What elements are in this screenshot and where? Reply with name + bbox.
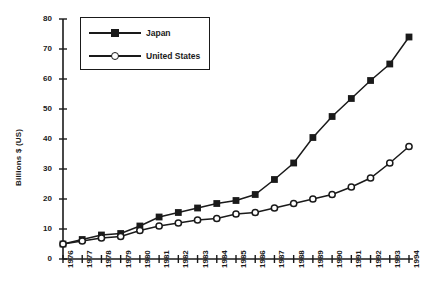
data-point-marker xyxy=(214,215,220,221)
data-point-marker xyxy=(98,235,104,241)
data-point-marker xyxy=(271,176,278,183)
legend-label-united-states: United States xyxy=(146,51,200,61)
data-point-marker xyxy=(406,34,413,41)
data-point-marker xyxy=(367,175,373,181)
series-line-united-states xyxy=(63,147,409,245)
data-point-marker xyxy=(367,77,374,84)
data-point-marker xyxy=(175,220,181,226)
legend-item-united-states: United States xyxy=(89,49,200,63)
data-point-marker xyxy=(387,160,393,166)
legend-swatch-square-icon xyxy=(89,27,141,39)
data-point-marker xyxy=(213,200,220,207)
data-point-marker xyxy=(233,197,240,204)
legend-label-japan: Japan xyxy=(146,28,171,38)
data-point-marker xyxy=(329,191,335,197)
legend-item-japan: Japan xyxy=(89,26,171,40)
data-point-marker xyxy=(79,238,85,244)
data-point-marker xyxy=(348,95,355,102)
data-point-marker xyxy=(233,211,239,217)
legend-swatch-circle-icon xyxy=(89,50,141,62)
plot-area xyxy=(0,0,434,308)
data-point-marker xyxy=(175,209,182,216)
data-point-marker xyxy=(386,61,393,68)
data-point-marker xyxy=(156,223,162,229)
data-point-marker xyxy=(309,134,316,141)
data-point-marker xyxy=(60,241,66,247)
line-chart: Billions $ (US) 01020304050607080 197619… xyxy=(0,0,434,308)
data-point-marker xyxy=(252,209,258,215)
data-point-marker xyxy=(156,214,163,221)
chart-legend: Japan United States xyxy=(80,17,210,70)
data-point-marker xyxy=(310,196,316,202)
data-point-marker xyxy=(348,184,354,190)
data-point-marker xyxy=(194,205,201,212)
data-point-marker xyxy=(271,205,277,211)
data-point-marker xyxy=(406,143,412,149)
data-point-marker xyxy=(329,113,336,120)
data-point-marker xyxy=(137,227,143,233)
data-point-marker xyxy=(252,191,259,198)
data-point-marker xyxy=(194,217,200,223)
data-point-marker xyxy=(291,200,297,206)
data-point-marker xyxy=(118,233,124,239)
data-point-marker xyxy=(290,160,297,167)
